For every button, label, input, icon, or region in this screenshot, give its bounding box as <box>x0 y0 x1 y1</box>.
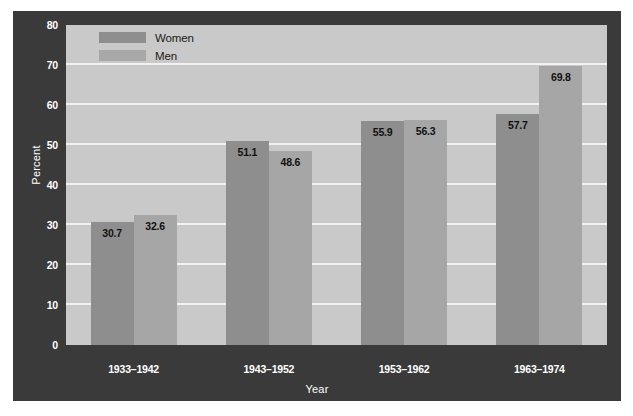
x-tick-label: 1933–1942 <box>91 363 177 375</box>
bar-women-1943–1952[interactable]: 51.1 <box>226 141 269 345</box>
bar-women-1963–1974[interactable]: 57.7 <box>496 114 539 345</box>
chart-panel: 01020304050607080 Percent 30.732.651.148… <box>13 11 621 401</box>
legend: WomenMen <box>99 30 194 66</box>
y-tick-label: 10 <box>13 299 58 311</box>
bar-value-label: 55.9 <box>361 126 404 138</box>
plot-area: 30.732.651.148.655.956.357.769.8 WomenMe… <box>66 25 607 345</box>
figure: 01020304050607080 Percent 30.732.651.148… <box>0 0 633 416</box>
y-axis-title: Percent <box>30 120 42 210</box>
y-tick-label: 70 <box>13 59 58 71</box>
legend-swatch-men <box>99 50 146 61</box>
legend-label: Women <box>155 32 194 44</box>
bar-value-label: 32.6 <box>134 220 177 232</box>
x-tick-label: 1943–1952 <box>226 363 312 375</box>
bar-women-1933–1942[interactable]: 30.7 <box>91 222 134 345</box>
y-tick-label: 20 <box>13 259 58 271</box>
bar-men-1953–1962[interactable]: 56.3 <box>404 120 447 345</box>
bar-value-label: 69.8 <box>539 71 582 83</box>
legend-label: Men <box>155 50 177 62</box>
gridline-60 <box>66 103 607 105</box>
legend-item-men[interactable]: Men <box>99 48 194 63</box>
bar-value-label: 30.7 <box>91 227 134 239</box>
legend-swatch-women <box>99 32 146 43</box>
x-tick-label: 1963–1974 <box>496 363 582 375</box>
legend-item-women[interactable]: Women <box>99 30 194 45</box>
bar-value-label: 56.3 <box>404 125 447 137</box>
y-tick-label: 30 <box>13 219 58 231</box>
bar-men-1943–1952[interactable]: 48.6 <box>269 151 312 345</box>
bar-women-1953–1962[interactable]: 55.9 <box>361 121 404 345</box>
y-tick-label: 60 <box>13 99 58 111</box>
bar-value-label: 51.1 <box>226 146 269 158</box>
x-tick-label: 1953–1962 <box>361 363 447 375</box>
y-tick-label: 80 <box>13 19 58 31</box>
bar-value-label: 57.7 <box>496 119 539 131</box>
bar-men-1933–1942[interactable]: 32.6 <box>134 215 177 345</box>
y-tick-label: 0 <box>13 339 58 351</box>
bar-value-label: 48.6 <box>269 156 312 168</box>
x-axis-title: Year <box>13 383 621 395</box>
bar-men-1963–1974[interactable]: 69.8 <box>539 66 582 345</box>
